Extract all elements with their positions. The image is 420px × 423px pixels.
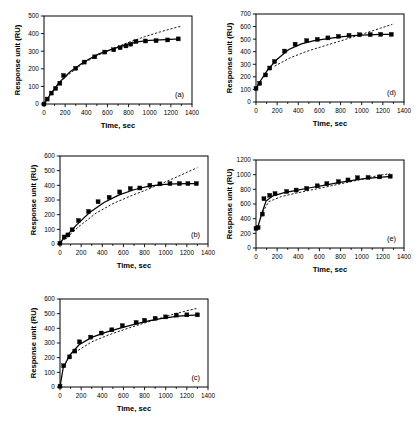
x-axis-title: Time, sec <box>117 261 151 270</box>
chart-a: 0200400600800100012001400010020030040050… <box>0 2 200 142</box>
y-tick-label: 0 <box>51 240 55 247</box>
data-point <box>78 340 82 344</box>
data-point <box>82 60 86 64</box>
data-point <box>93 55 97 59</box>
data-point <box>326 36 330 40</box>
y-tick-label: 300 <box>44 339 55 346</box>
data-point <box>336 34 340 38</box>
y-tick-label: 400 <box>44 182 55 189</box>
x-tick-label: 1400 <box>185 109 200 116</box>
x-tick-label: 200 <box>60 109 71 116</box>
data-point <box>268 66 272 70</box>
panel-b: 0200400600800100012001400010020030040050… <box>16 142 216 282</box>
dashed-model-line-b <box>64 168 197 240</box>
dashed-model-line-d <box>275 24 393 66</box>
data-point <box>174 313 178 317</box>
chart-d: 0200400600800100012001400010020030040050… <box>212 0 412 140</box>
y-tick-label: 400 <box>44 325 55 332</box>
y-tick-label: 600 <box>44 152 55 159</box>
y-tick-label: 300 <box>240 61 251 68</box>
data-point <box>185 313 189 317</box>
x-tick-label: 1200 <box>180 392 195 399</box>
data-point <box>134 320 138 324</box>
panel-label-e: (e) <box>387 234 396 243</box>
y-tick-label: 0 <box>35 100 39 107</box>
data-point <box>347 33 351 37</box>
panel-e: 0200400600800100012001400020040060080010… <box>212 146 412 286</box>
data-point <box>148 183 152 187</box>
x-tick-label: 800 <box>139 249 150 256</box>
data-point <box>128 187 132 191</box>
data-point <box>99 331 103 335</box>
y-tick-label: 500 <box>240 36 251 43</box>
data-point <box>66 233 70 237</box>
data-point <box>73 349 77 353</box>
y-tick-label: 0 <box>51 383 55 390</box>
y-tick-label: 500 <box>28 12 39 19</box>
data-point <box>70 228 74 232</box>
data-point <box>62 73 66 77</box>
data-point <box>96 200 100 204</box>
data-point <box>77 219 81 223</box>
fit-curve-e <box>256 176 391 229</box>
data-point <box>45 97 49 101</box>
x-tick-label: 600 <box>314 107 325 114</box>
data-point <box>74 66 78 70</box>
panel-c: 0200400600800100012001400010020030040050… <box>16 285 216 423</box>
y-tick-label: 1000 <box>237 171 252 178</box>
x-tick-label: 1000 <box>159 249 174 256</box>
x-tick-label: 400 <box>293 107 304 114</box>
data-point <box>268 193 272 197</box>
fit-curve-b <box>60 184 197 243</box>
x-tick-label: 800 <box>335 107 346 114</box>
data-point <box>154 39 158 43</box>
plot-frame-a <box>44 16 192 104</box>
panel-label-c: (c) <box>191 373 200 382</box>
x-tick-label: 1400 <box>397 107 412 114</box>
y-tick-label: 0 <box>247 244 251 251</box>
data-point <box>124 44 128 48</box>
y-tick-label: 400 <box>28 30 39 37</box>
x-tick-label: 200 <box>76 392 87 399</box>
y-tick-label: 600 <box>240 23 251 30</box>
y-tick-label: 600 <box>240 200 251 207</box>
x-tick-label: 1200 <box>164 109 179 116</box>
data-point <box>260 212 264 216</box>
x-tick-label: 800 <box>123 109 134 116</box>
dashed-model-line-a <box>52 26 181 91</box>
x-tick-label: 1400 <box>201 392 216 399</box>
x-tick-label: 1200 <box>180 249 195 256</box>
fit-curve-c <box>60 315 197 387</box>
data-point <box>285 190 289 194</box>
chart-e: 0200400600800100012001400020040060080010… <box>212 146 412 286</box>
data-point <box>325 182 329 186</box>
data-point <box>143 39 147 43</box>
data-point <box>103 50 107 54</box>
data-point <box>378 175 382 179</box>
data-markers-e <box>254 174 392 230</box>
x-tick-label: 400 <box>97 392 108 399</box>
y-tick-label: 100 <box>28 83 39 90</box>
x-tick-label: 1000 <box>355 107 370 114</box>
panel-label-a: (a) <box>175 90 184 99</box>
dashed-model-line-e <box>261 174 391 216</box>
y-tick-label: 100 <box>44 369 55 376</box>
x-tick-label: 1000 <box>143 109 158 116</box>
data-point <box>62 364 66 368</box>
x-tick-label: 0 <box>42 109 46 116</box>
data-point <box>164 315 168 319</box>
data-point <box>177 182 181 186</box>
data-markers-a <box>42 37 180 106</box>
data-point <box>153 316 157 320</box>
data-point <box>273 192 277 196</box>
data-point <box>49 91 53 95</box>
data-point <box>358 33 362 37</box>
y-tick-label: 200 <box>240 230 251 237</box>
y-tick-label: 500 <box>44 167 55 174</box>
data-point <box>262 197 266 201</box>
data-point <box>112 48 116 52</box>
data-markers-c <box>58 313 199 388</box>
data-point <box>168 182 172 186</box>
x-axis-title: Time, sec <box>117 404 151 413</box>
y-tick-label: 0 <box>247 98 251 105</box>
